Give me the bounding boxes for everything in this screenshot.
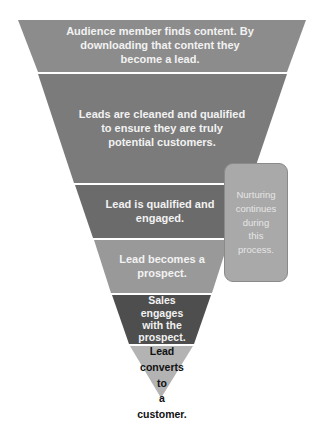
stage-5-line-4: prospect. [138, 331, 185, 343]
stage-4-line-2: prospect. [119, 267, 205, 281]
stage-6-line-5: customer. [137, 407, 187, 423]
stage-5-line-1: Sales [138, 294, 185, 306]
funnel-stage-5-label: Sales engages with the prospect. [120, 294, 204, 344]
stage-6-line-3: to [137, 376, 187, 392]
note-line-4: this [236, 229, 277, 243]
stage-1-line-1: Audience member finds content. By [66, 25, 254, 39]
note-line-3: during [236, 216, 277, 230]
stage-3-line-1: Lead is qualified and [106, 198, 215, 212]
funnel-stage-6-label: Lead converts to a customer. [121, 344, 203, 422]
stage-1-line-2: downloading that content they [66, 39, 254, 53]
funnel-stage-1-label: Audience member finds content. By downlo… [40, 22, 280, 70]
nurturing-note-box: Nurturing continues during this process. [224, 163, 288, 282]
funnel-stage-3-label: Lead is qualified and engaged. [90, 192, 230, 232]
stage-6-line-1: Lead [137, 344, 187, 360]
stage-5-line-3: with the [138, 319, 185, 331]
note-line-1: Nurturing [236, 188, 277, 202]
funnel-stage-4-label: Lead becomes a prospect. [105, 247, 219, 287]
stage-2-line-3: potential customers. [79, 136, 245, 150]
funnel-stage-2-label: Leads are cleaned and qualified to ensur… [60, 100, 264, 158]
stage-2-line-1: Leads are cleaned and qualified [79, 108, 245, 122]
stage-5-line-2: engages [138, 307, 185, 319]
stage-4-line-1: Lead becomes a [119, 253, 205, 267]
note-line-5: process. [236, 243, 277, 257]
note-line-2: continues [236, 202, 277, 216]
stage-1-line-3: become a lead. [66, 53, 254, 67]
stage-6-line-2: converts [137, 360, 187, 376]
stage-2-line-2: to ensure they are truly [79, 122, 245, 136]
stage-3-line-2: engaged. [106, 212, 215, 226]
stage-6-line-4: a [137, 391, 187, 407]
